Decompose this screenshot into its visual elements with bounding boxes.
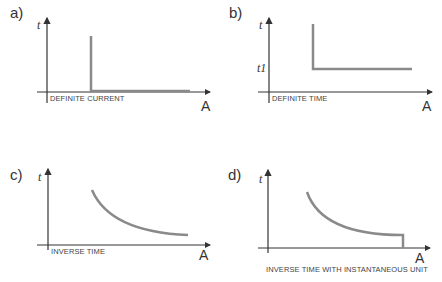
panel-b-caption: DEFINITE TIME [272, 94, 327, 103]
panel-b-graph [258, 18, 432, 103]
x-axis-label: A [201, 98, 210, 114]
panel-c-graph [37, 169, 210, 250]
y-axis-label: t [37, 18, 40, 33]
panel-c-caption: INVERSE TIME [51, 247, 105, 256]
inverse-time-instantaneous-curve [307, 192, 403, 248]
panel-d-graph [258, 170, 430, 253]
y-axis-label: t [259, 18, 262, 33]
x-axis-label: A [415, 250, 424, 266]
y-axis-label: t [38, 170, 41, 185]
inverse-time-curve [92, 190, 188, 235]
definite-current-curve [91, 36, 190, 91]
panel-d-label: d) [228, 166, 241, 183]
t1-tick-label: t1 [257, 61, 266, 76]
panel-d-caption: INVERSE TIME WITH INSTANTANEOUS UNIT [266, 265, 428, 274]
panel-b-label: b) [229, 4, 242, 21]
x-axis-label: A [422, 98, 431, 114]
panel-a-graph [37, 18, 210, 103]
x-axis-label: A [199, 247, 208, 263]
definite-time-curve [313, 24, 412, 69]
y-axis-label: t [259, 172, 262, 187]
panel-c-label: c) [10, 166, 23, 183]
characteristics-diagram [0, 0, 442, 282]
panel-a-label: a) [10, 4, 23, 21]
panel-a-caption: DEFINITE CURRENT [50, 94, 125, 103]
